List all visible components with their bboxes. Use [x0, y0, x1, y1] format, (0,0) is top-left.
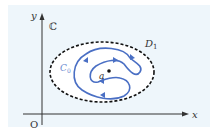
point-label: a [99, 71, 104, 81]
origin-label: O [30, 119, 38, 130]
y-axis-label: y [30, 10, 37, 21]
y-axis-arrow-icon [40, 13, 45, 20]
x-axis-arrow-icon [182, 112, 189, 117]
plane-label: ℂ [49, 21, 57, 32]
complex-plane-diagram: y ℂ x O D1 C0 a [0, 0, 217, 139]
point-a-marker [107, 69, 111, 73]
region-label: D1 [144, 38, 158, 51]
x-axis-label: x [192, 109, 198, 120]
